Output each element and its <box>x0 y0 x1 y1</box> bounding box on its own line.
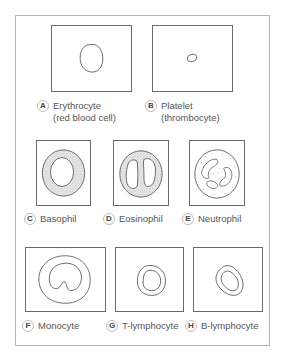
cell-name: B-lymphocyte <box>201 320 259 332</box>
t-lymphocyte-label: G T-lymphocyte <box>106 320 179 332</box>
erythrocyte-drawing <box>52 26 131 91</box>
cell-name: Erythrocyte <box>53 100 101 111</box>
eosinophil-drawing <box>114 141 168 205</box>
monocyte-label: F Monocyte <box>22 320 79 332</box>
t-lymphocyte-panel <box>115 247 184 312</box>
cell-subname: (red blood cell) <box>53 112 116 124</box>
eosinophil-label: D Eosinophil <box>103 213 163 225</box>
letter-badge: H <box>185 320 197 332</box>
erythrocyte-label: A Erythrocyte(red blood cell) <box>37 100 116 124</box>
cell-subname: (thrombocyte) <box>161 112 220 124</box>
letter-badge: D <box>103 213 115 225</box>
cell-name: Monocyte <box>38 320 79 332</box>
eosinophil-panel <box>113 140 169 206</box>
letter-badge: C <box>24 213 36 225</box>
b-lymphocyte-panel <box>193 247 263 312</box>
neutrophil-label: E Neutrophil <box>182 213 241 225</box>
letter-badge: A <box>37 100 49 112</box>
t-lymphocyte-drawing <box>116 248 183 311</box>
cell-name: T-lymphocyte <box>122 320 179 332</box>
cell-name: Basophil <box>40 213 76 225</box>
neutrophil-panel <box>189 140 245 206</box>
letter-badge: F <box>22 320 34 332</box>
b-lymphocyte-label: H B-lymphocyte <box>185 320 259 332</box>
platelet-label: B Platelet(thrombocyte) <box>145 100 220 124</box>
monocyte-drawing <box>26 248 105 311</box>
b-lymphocyte-drawing <box>194 248 262 311</box>
monocyte-panel <box>25 247 106 312</box>
platelet-drawing <box>153 26 232 91</box>
erythrocyte-panel <box>51 25 132 92</box>
platelet-panel <box>152 25 233 92</box>
letter-badge: G <box>106 320 118 332</box>
letter-badge: E <box>182 213 194 225</box>
basophil-drawing <box>37 141 90 205</box>
basophil-label: C Basophil <box>24 213 76 225</box>
letter-badge: B <box>145 100 157 112</box>
cell-name: Neutrophil <box>198 213 241 225</box>
cell-name: Platelet <box>161 100 193 111</box>
neutrophil-drawing <box>190 141 244 205</box>
cell-name: Eosinophil <box>119 213 163 225</box>
basophil-panel <box>36 140 91 206</box>
